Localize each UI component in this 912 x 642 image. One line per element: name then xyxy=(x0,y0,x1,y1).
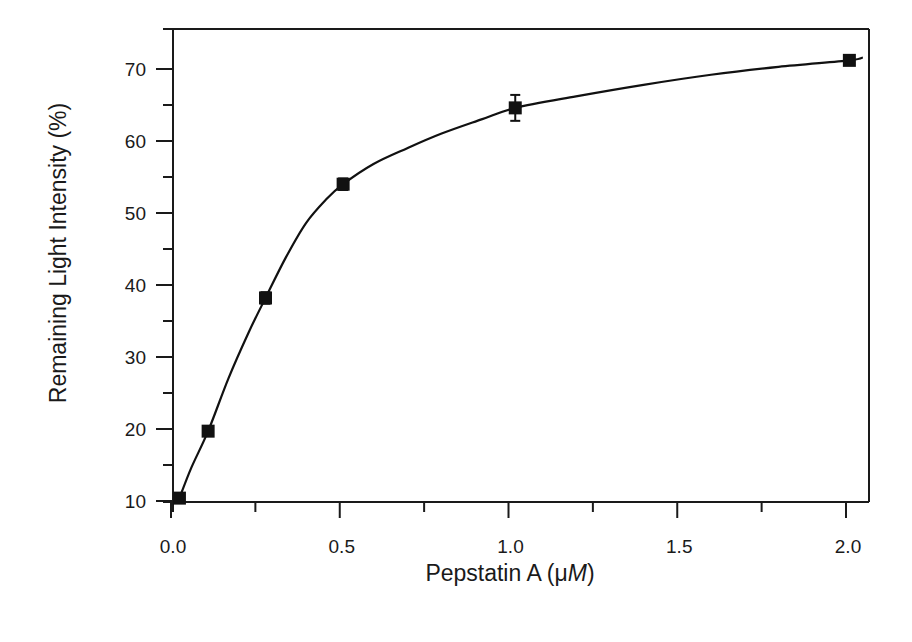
chart: 0.00.51.01.52.0 10203040506070 Pepstatin… xyxy=(0,0,912,642)
y-axis-label: Remaining Light Intensity (%) xyxy=(45,103,71,403)
x-axis-tick-labels: 0.00.51.01.52.0 xyxy=(160,536,861,557)
data-point-marker xyxy=(259,291,272,304)
x-tick-label: 1.5 xyxy=(666,536,692,557)
error-bars xyxy=(174,57,854,502)
x-tick-label: 1.0 xyxy=(497,536,523,557)
x-tick-label: 0.5 xyxy=(329,536,355,557)
data-point-marker xyxy=(337,178,350,191)
y-axis-ticks xyxy=(156,69,173,501)
y-tick-label: 50 xyxy=(125,203,146,224)
y-tick-label: 70 xyxy=(125,59,146,80)
data-point-marker xyxy=(843,54,856,67)
y-tick-label: 20 xyxy=(125,419,146,440)
data-point-marker xyxy=(509,101,522,114)
x-tick-label: 0.0 xyxy=(160,536,186,557)
y-tick-label: 10 xyxy=(125,491,146,512)
data-point-marker xyxy=(173,492,186,505)
y-axis-tick-labels: 10203040506070 xyxy=(125,59,146,512)
y-tick-label: 30 xyxy=(125,347,146,368)
fit-curve xyxy=(179,57,862,498)
x-axis-ticks xyxy=(171,502,846,518)
y-tick-label: 60 xyxy=(125,131,146,152)
data-point-marker xyxy=(202,425,215,438)
x-tick-label: 2.0 xyxy=(835,536,861,557)
y-tick-label: 40 xyxy=(125,275,146,296)
x-axis-label: Pepstatin A (μM) xyxy=(425,560,594,586)
